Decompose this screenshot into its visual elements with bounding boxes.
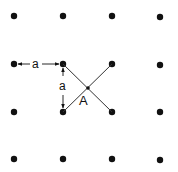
center-point-a xyxy=(86,86,90,90)
vertical-dimension-label: a xyxy=(59,79,66,93)
lattice-point xyxy=(109,13,115,19)
square-lattice-diagram: a a A xyxy=(0,0,178,172)
horizontal-dimension-label: a xyxy=(32,57,39,71)
lattice-point xyxy=(157,109,163,115)
lattice-point xyxy=(11,13,17,19)
lattice-point xyxy=(11,61,17,67)
lattice-point xyxy=(109,156,115,162)
lattice-point xyxy=(11,156,17,162)
point-label-a: A xyxy=(79,93,88,108)
lattice-point xyxy=(60,13,66,19)
lattice-point xyxy=(157,62,163,68)
lattice-point xyxy=(11,109,17,115)
lattice-point xyxy=(157,14,163,20)
lattice-point xyxy=(157,157,163,163)
lattice-point xyxy=(60,156,66,162)
